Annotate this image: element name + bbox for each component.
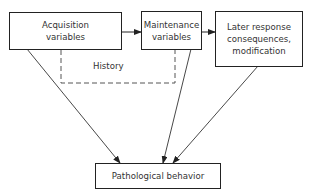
arrow-later-to-pathological bbox=[173, 66, 258, 163]
node-label-line: consequences, bbox=[227, 33, 291, 45]
node-label-line: variables bbox=[144, 31, 199, 43]
history-label: History bbox=[93, 61, 124, 71]
node-label-line: modification bbox=[227, 45, 291, 57]
node-pathological-behavior: Pathological behavior bbox=[95, 163, 221, 189]
node-label-line: variables bbox=[42, 31, 89, 43]
arrow-maintenance-to-pathological bbox=[163, 49, 191, 163]
node-acquisition-variables: Acquisition variables bbox=[9, 12, 122, 50]
node-later-response: Later response consequences, modificatio… bbox=[215, 11, 303, 67]
node-maintenance-variables: Maintenance variables bbox=[141, 11, 202, 50]
node-label: Pathological behavior bbox=[112, 170, 204, 182]
diagram-canvas: Acquisition variables Maintenance variab… bbox=[0, 0, 310, 193]
node-label-line: Later response bbox=[227, 21, 291, 33]
node-label-line: Maintenance bbox=[144, 19, 199, 31]
node-label-line: Acquisition bbox=[42, 19, 89, 31]
